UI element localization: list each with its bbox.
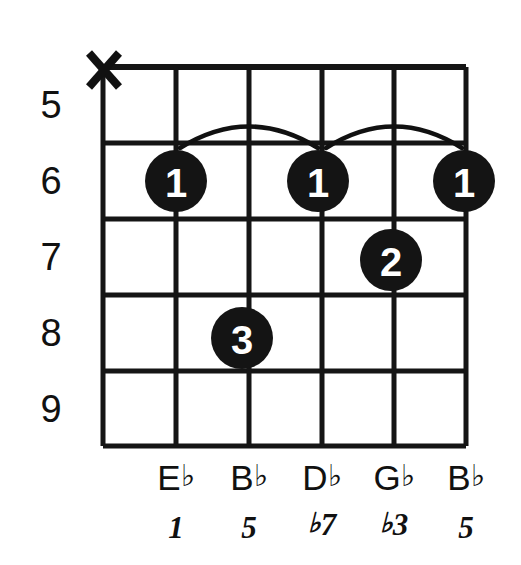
interval-degree: 5 <box>241 510 257 545</box>
fret-number-9: 9 <box>40 388 61 430</box>
fret-number-column: 5 6 7 8 9 <box>40 84 61 430</box>
note-name-string-2: E♭ <box>157 458 194 497</box>
fret-number-7: 7 <box>40 236 61 278</box>
note-name-string-3: B♭ <box>230 458 267 497</box>
note-name-row: E♭ B♭ D♭ G♭ B♭ <box>157 458 484 497</box>
finger-dot-string6-fret6[interactable]: 1 <box>433 150 495 212</box>
note-accidental: ♭ <box>254 459 268 492</box>
finger-dot-string2-fret6[interactable]: 1 <box>145 150 207 212</box>
chord-diagram: 1 3 1 2 1 5 6 7 8 9 <box>0 0 521 565</box>
note-accidental: ♭ <box>471 459 485 492</box>
finger-dot-label: 1 <box>165 161 187 205</box>
interval-accidental: ♭ <box>380 508 394 538</box>
note-letter: E <box>157 458 180 497</box>
interval-row: 1 5 ♭7 ♭3 5 <box>168 507 474 545</box>
finger-dot-string4-fret6[interactable]: 1 <box>287 150 349 212</box>
finger-dot-label: 1 <box>307 161 329 205</box>
interval-string-3: 5 <box>241 510 257 545</box>
fret-number-6: 6 <box>40 160 61 202</box>
finger-dot-label: 3 <box>231 318 253 362</box>
note-letter: B <box>447 458 470 497</box>
interval-string-4: ♭7 <box>308 507 338 542</box>
finger-dot-string5-fret7[interactable]: 2 <box>360 229 422 291</box>
interval-string-5: ♭3 <box>380 507 409 542</box>
interval-accidental: ♭ <box>308 508 322 538</box>
interval-string-2: 1 <box>168 510 184 545</box>
interval-degree: 5 <box>458 510 474 545</box>
fret-number-5: 5 <box>40 84 61 126</box>
finger-dot-label: 2 <box>380 240 402 284</box>
note-name-string-4: D♭ <box>302 458 341 497</box>
finger-dot-label: 1 <box>453 161 475 205</box>
interval-string-6: 5 <box>458 510 474 545</box>
fret-number-8: 8 <box>40 312 61 354</box>
note-letter: B <box>230 458 253 497</box>
finger-dot-string3-fret8[interactable]: 3 <box>211 307 273 369</box>
interval-degree: 1 <box>168 510 184 545</box>
note-letter: G <box>373 458 400 497</box>
note-accidental: ♭ <box>401 459 415 492</box>
note-letter: D <box>302 458 327 497</box>
note-name-string-5: G♭ <box>373 458 414 497</box>
interval-degree: 3 <box>392 507 409 542</box>
note-name-string-6: B♭ <box>447 458 484 497</box>
note-accidental: ♭ <box>328 459 342 492</box>
note-accidental: ♭ <box>181 459 195 492</box>
interval-degree: 7 <box>321 507 338 542</box>
